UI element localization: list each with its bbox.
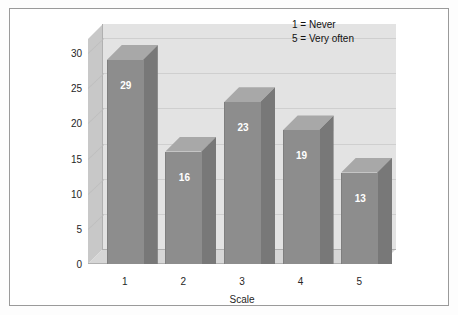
y-axis-tick-label: 10 — [71, 188, 82, 199]
bar-value-label: 16 — [166, 172, 202, 183]
bar-value-label: 29 — [108, 80, 144, 91]
bar-column[interactable]: 23 — [224, 87, 275, 264]
bar-front-face: 16 — [165, 152, 202, 265]
y-axis-tick-label: 0 — [76, 259, 82, 270]
plot-area: 051015202530 2916231913 12345 Scale — [88, 24, 396, 264]
x-axis-title: Scale — [88, 294, 396, 305]
bar-value-label: 19 — [284, 150, 320, 161]
bar-column[interactable]: 29 — [107, 45, 158, 264]
chart-figure: 051015202530 2916231913 12345 Scale 1 = … — [0, 0, 458, 315]
bar-front-face: 19 — [283, 130, 320, 264]
bar-front-face: 13 — [341, 173, 378, 264]
bar-side-face — [260, 87, 275, 264]
x-axis-tick-label: 4 — [298, 276, 304, 287]
legend-line-never: 1 = Never — [292, 18, 354, 32]
x-axis-tick-label: 5 — [356, 276, 362, 287]
y-axis-tick-label: 20 — [71, 118, 82, 129]
bar-column[interactable]: 16 — [165, 137, 216, 265]
y-axis-tick-label: 30 — [71, 48, 82, 59]
y-axis-tick-label: 5 — [76, 223, 82, 234]
bar-value-label: 23 — [225, 122, 261, 133]
y-axis-tick-label: 15 — [71, 153, 82, 164]
bar-front-face: 29 — [107, 60, 144, 264]
bar-column[interactable]: 13 — [341, 158, 392, 264]
x-axis-tick-label: 2 — [181, 276, 187, 287]
x-axis-tick-label: 1 — [122, 276, 128, 287]
chart-legend: 1 = Never 5 = Very often — [292, 18, 354, 46]
x-axis-tick-label: 3 — [239, 276, 245, 287]
bar-side-face — [319, 115, 334, 264]
bar-side-face — [143, 45, 158, 264]
y-axis-tick-label: 25 — [71, 83, 82, 94]
bar-column[interactable]: 19 — [283, 115, 334, 264]
bar-front-face: 23 — [224, 102, 261, 264]
bar-side-face — [377, 158, 392, 264]
legend-line-very-often: 5 = Very often — [292, 32, 354, 46]
bar-side-face — [201, 137, 216, 265]
bar-value-label: 13 — [342, 193, 378, 204]
